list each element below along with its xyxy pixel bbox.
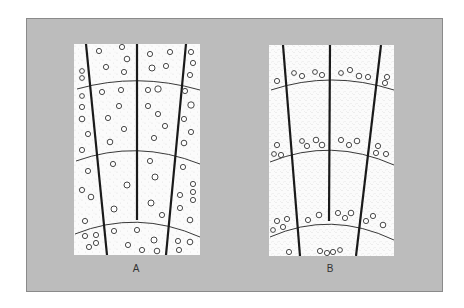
panel-b-label: B — [320, 263, 340, 274]
panel-b-ring-porous — [269, 45, 394, 256]
panel-a-label: A — [126, 263, 146, 274]
panel-b-drawing — [269, 45, 394, 256]
panel-a-diffuse-porous — [74, 44, 200, 255]
panel-a-drawing — [74, 44, 200, 255]
